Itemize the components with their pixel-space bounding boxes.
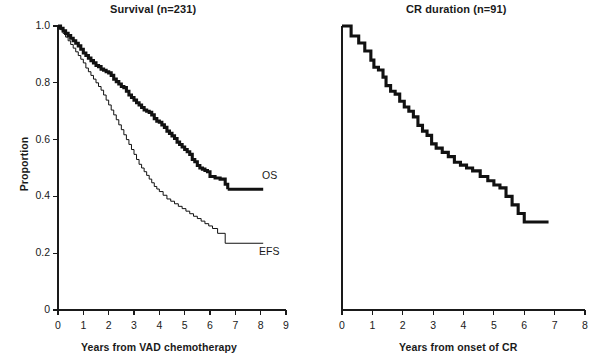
left-panel-x-tick-marks: [58, 310, 286, 315]
efs-survival-curve: [58, 26, 225, 243]
left-panel-curves: [58, 26, 263, 243]
x-tick-label: 7: [545, 319, 565, 331]
x-tick-label: 4: [454, 319, 474, 331]
x-tick-label: 4: [149, 319, 169, 331]
figure-root: Survival (n=231) CR duration (n=91) Year…: [0, 0, 596, 359]
x-tick-label: 8: [251, 319, 271, 331]
y-tick-label: 1.0: [6, 19, 50, 31]
y-tick-label: 0.6: [6, 133, 50, 145]
y-tick-label: 0.2: [6, 246, 50, 258]
x-tick-label: 5: [175, 319, 195, 331]
y-tick-label: 0: [6, 303, 50, 315]
right-panel-x-axis-label: Years from onset of CR: [399, 341, 517, 353]
left-panel-y-tick-marks: [53, 26, 58, 310]
x-tick-label: 5: [484, 319, 504, 331]
x-tick-label: 0: [332, 319, 352, 331]
left-panel-title: Survival (n=231): [110, 3, 196, 15]
x-tick-label: 7: [225, 319, 245, 331]
x-tick-label: 1: [73, 319, 93, 331]
x-tick-label: 0: [48, 319, 68, 331]
x-tick-label: 2: [99, 319, 119, 331]
efs-curve-label: EFS: [259, 245, 279, 257]
x-tick-label: 1: [362, 319, 382, 331]
right-panel-curves: [342, 26, 549, 222]
y-tick-label: 0.8: [6, 76, 50, 88]
x-tick-label: 3: [423, 319, 443, 331]
x-tick-label: 3: [124, 319, 144, 331]
x-tick-label: 6: [200, 319, 220, 331]
x-tick-label: 6: [514, 319, 534, 331]
x-tick-label: 9: [276, 319, 296, 331]
left-panel-x-axis-label: Years from VAD chemotherapy: [81, 341, 237, 353]
right-panel-x-tick-marks: [342, 310, 585, 315]
os-curve-label: OS: [262, 169, 277, 181]
cr-duration-curve: [342, 26, 549, 222]
x-tick-label: 8: [575, 319, 595, 331]
os-survival-curve: [58, 26, 228, 189]
plot-canvas: [0, 0, 596, 359]
right-panel-title: CR duration (n=91): [406, 3, 507, 15]
x-tick-label: 2: [393, 319, 413, 331]
y-tick-label: 0.4: [6, 189, 50, 201]
